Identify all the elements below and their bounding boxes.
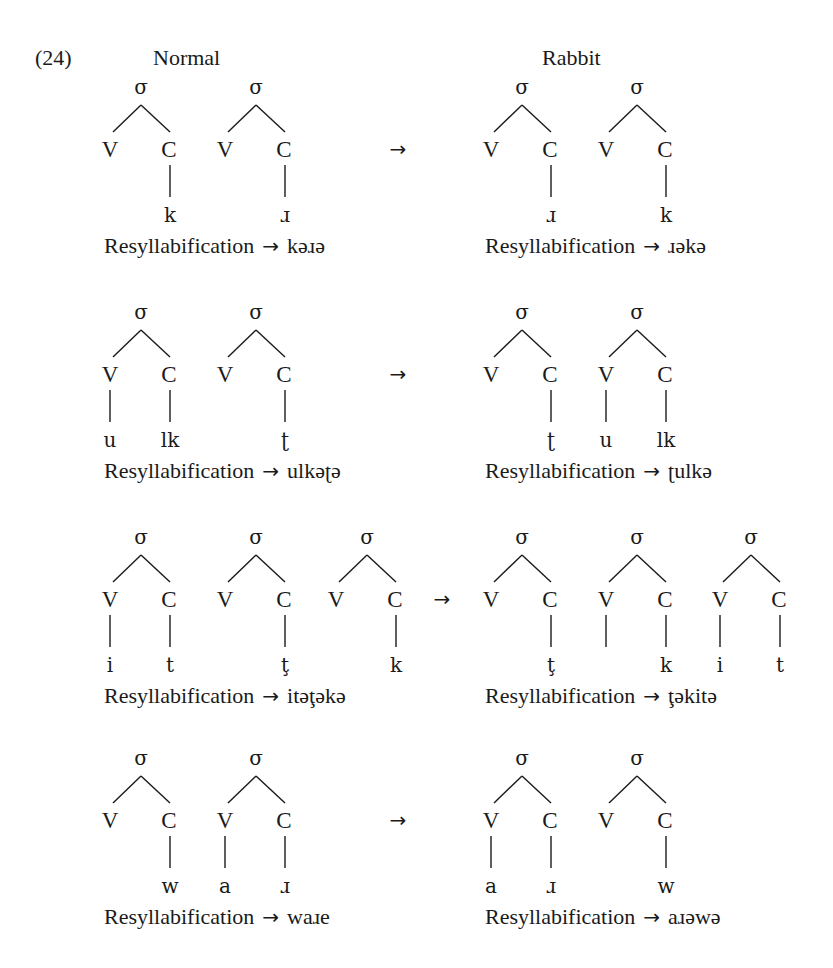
transformation-arrow-icon: → xyxy=(390,137,407,161)
consonant-segment: ɹ xyxy=(280,874,290,898)
branch-line-c xyxy=(522,105,551,132)
consonant-slot: C xyxy=(657,137,672,162)
resyllabification-label: Resyllabification xyxy=(104,233,254,258)
consonant-segment: k xyxy=(660,653,673,677)
resyllabified-form: waɹe xyxy=(287,904,330,929)
normal-resyllabification: Resyllabification→waɹe xyxy=(104,904,330,929)
branch-line-c xyxy=(637,330,666,357)
consonant-segment: lk xyxy=(657,428,676,452)
consonant-slot: C xyxy=(161,587,176,612)
vowel-slot: V xyxy=(102,808,119,833)
branch-line-c xyxy=(141,330,170,357)
vowel-slot: V xyxy=(598,808,615,833)
diagram-rows: σVCkσVCɹResyllabification→kəɹəσVCɹσVCkRe… xyxy=(102,75,787,929)
consonant-segment: t xyxy=(776,653,784,677)
sigma-label: σ xyxy=(134,525,148,549)
normal-structure: σVCkσVCɹResyllabification→kəɹə xyxy=(102,75,325,258)
resyllabified-form: aɹəwə xyxy=(668,904,721,929)
header-normal: Normal xyxy=(153,45,220,70)
normal-structure: σVCulkσVCʈResyllabification→ulkəʈə xyxy=(102,300,341,483)
branch-line-c xyxy=(367,555,396,582)
resyllabified-form: kəɹə xyxy=(287,233,325,258)
resyllabified-form: ɹəkə xyxy=(668,233,706,258)
branch-line-v xyxy=(609,555,637,582)
consonant-slot: C xyxy=(657,362,672,387)
example-row-2: σVCulkσVCʈResyllabification→ulkəʈəσVCʈσV… xyxy=(102,300,712,483)
branch-line-c xyxy=(751,555,780,582)
vowel-segment: a xyxy=(485,874,497,898)
sigma-label: σ xyxy=(134,75,148,99)
consonant-segment: k xyxy=(164,203,177,227)
sigma-label: σ xyxy=(515,746,529,770)
resyllabification-label: Resyllabification xyxy=(104,458,254,483)
vowel-slot: V xyxy=(102,587,119,612)
diagram-canvas: (24) Normal Rabbit σVCkσVCɹResyllabifica… xyxy=(0,0,833,968)
branch-line-c xyxy=(637,776,666,803)
vowel-slot: V xyxy=(598,587,615,612)
branch-line-v xyxy=(494,776,522,803)
branch-line-c xyxy=(522,776,551,803)
consonant-segment: ʈ xyxy=(281,428,289,452)
consonant-segment: ɹ xyxy=(546,203,556,227)
branch-line-c xyxy=(141,105,170,132)
branch-line-c xyxy=(141,555,170,582)
branch-line-v xyxy=(228,776,256,803)
branch-line-c xyxy=(256,776,285,803)
syllable-node: σVCɹ xyxy=(483,75,558,227)
rabbit-resyllabification: Resyllabification→ɹəkə xyxy=(485,233,706,258)
consonant-slot: C xyxy=(657,808,672,833)
branch-line-v xyxy=(113,555,141,582)
resyllabified-form: ţəkitə xyxy=(668,683,717,708)
consonant-segment: t xyxy=(166,653,174,677)
branch-line-v xyxy=(494,555,522,582)
normal-structure: σVCwσVCaɹResyllabification→waɹe xyxy=(102,746,330,929)
syllable-node: σVCit xyxy=(102,525,177,677)
arrow-icon: → xyxy=(262,905,279,929)
vowel-slot: V xyxy=(712,587,729,612)
branch-line-v xyxy=(609,105,637,132)
arrow-icon: → xyxy=(643,684,660,708)
rabbit-resyllabification: Resyllabification→aɹəwə xyxy=(485,904,721,929)
syllable-node: σVCw xyxy=(102,746,179,898)
vowel-slot: V xyxy=(483,808,500,833)
resyllabification-label: Resyllabification xyxy=(104,683,254,708)
rabbit-structure: σVCʈσVCulkResyllabification→ʈulkə xyxy=(483,300,712,483)
rabbit-structure: σVCaɹσVCwResyllabification→aɹəwə xyxy=(483,746,721,929)
sigma-label: σ xyxy=(515,75,529,99)
transformation-arrow-icon: → xyxy=(390,808,407,832)
branch-line-v xyxy=(228,105,256,132)
sigma-label: σ xyxy=(134,746,148,770)
sigma-label: σ xyxy=(630,746,644,770)
consonant-slot: C xyxy=(276,137,291,162)
syllable-node: σVCţ xyxy=(217,525,292,677)
example-number: (24) xyxy=(35,45,72,70)
branch-line-v xyxy=(113,776,141,803)
branch-line-c xyxy=(522,330,551,357)
sigma-label: σ xyxy=(515,300,529,324)
rabbit-resyllabification: Resyllabification→ʈulkə xyxy=(485,458,712,483)
branch-line-v xyxy=(339,555,367,582)
transformation-arrow-icon: → xyxy=(434,587,451,611)
consonant-segment: ɹ xyxy=(280,203,290,227)
rabbit-structure: σVCţσVCkσVCitResyllabification→ţəkitə xyxy=(483,525,787,708)
branch-line-v xyxy=(494,105,522,132)
syllable-node: σVCw xyxy=(598,746,675,898)
branch-line-c xyxy=(256,555,285,582)
syllable-node: σVCit xyxy=(712,525,787,677)
syllable-node: σVCulk xyxy=(102,300,180,452)
resyllabification-label: Resyllabification xyxy=(104,904,254,929)
resyllabification-label: Resyllabification xyxy=(485,683,635,708)
consonant-segment: lk xyxy=(161,428,180,452)
consonant-slot: C xyxy=(771,587,786,612)
vowel-slot: V xyxy=(217,137,234,162)
consonant-segment: ʈ xyxy=(547,428,555,452)
arrow-icon: → xyxy=(643,459,660,483)
sigma-label: σ xyxy=(249,746,263,770)
sigma-label: σ xyxy=(630,75,644,99)
syllable-node: σVCk xyxy=(102,75,177,227)
resyllabified-form: itəţəkə xyxy=(287,683,346,708)
rabbit-resyllabification: Resyllabification→ţəkitə xyxy=(485,683,717,708)
resyllabification-label: Resyllabification xyxy=(485,233,635,258)
example-row-4: σVCwσVCaɹResyllabification→waɹeσVCaɹσVCw… xyxy=(102,746,721,929)
normal-resyllabification: Resyllabification→ulkəʈə xyxy=(104,458,341,483)
